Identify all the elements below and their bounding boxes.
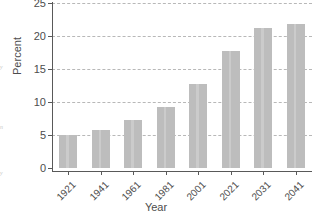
bar — [222, 51, 240, 168]
bar-chart-figure: y n y Percent 0510152025 192119411961198… — [0, 0, 312, 220]
plot-area: 0510152025 19211941196119812001202120312… — [52, 3, 312, 168]
y-tick-label: 5 — [40, 129, 46, 141]
x-axis-line — [52, 171, 312, 172]
bar — [189, 84, 207, 168]
y-tick-label: 10 — [34, 96, 46, 108]
bar — [254, 28, 272, 168]
bar — [124, 120, 142, 168]
y-axis-title: Percent — [11, 26, 23, 86]
bar — [59, 135, 77, 168]
bar — [157, 107, 175, 168]
gridline — [52, 69, 312, 70]
clipped-margin-text-fragment: y — [0, 170, 8, 176]
x-axis-title: Year — [0, 201, 312, 213]
y-tick-label: 20 — [34, 30, 46, 42]
gridline — [52, 102, 312, 103]
clipped-margin-text-fragment: y — [0, 64, 8, 70]
y-tick-label: 15 — [34, 63, 46, 75]
gridline — [52, 36, 312, 37]
y-tick-label: 0 — [40, 162, 46, 174]
bar — [287, 24, 305, 168]
y-axis-line — [52, 2, 53, 172]
gridline — [52, 3, 312, 4]
clipped-margin-text-fragment: n — [0, 124, 8, 130]
bar — [92, 130, 110, 168]
y-tick-label: 25 — [34, 0, 46, 9]
